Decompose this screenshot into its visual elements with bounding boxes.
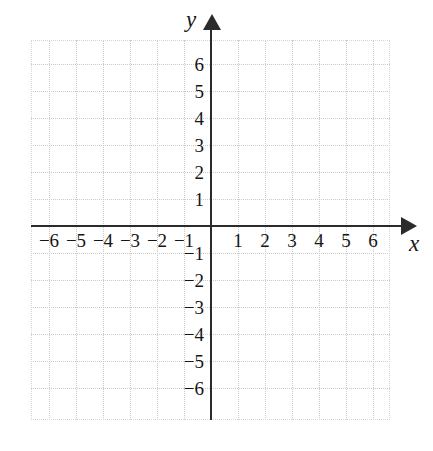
x-axis-line bbox=[31, 225, 405, 227]
x-tick-label: −4 bbox=[93, 231, 113, 250]
x-tick-label: 6 bbox=[368, 231, 378, 250]
y-tick-label: −2 bbox=[184, 271, 204, 290]
grid-boundary-line bbox=[31, 40, 32, 420]
y-tick-label: 6 bbox=[195, 55, 205, 74]
x-tick-label: 3 bbox=[287, 231, 297, 250]
y-tick-label: −3 bbox=[184, 298, 204, 317]
x-tick-label: 1 bbox=[233, 231, 243, 250]
grid-boundary-line bbox=[389, 40, 390, 420]
coordinate-plane-figure: −6−5−4−3−2−1123456 654321−1−2−3−4−5−6 x … bbox=[0, 0, 433, 451]
y-axis-label: y bbox=[186, 8, 196, 31]
x-tick-label: 5 bbox=[341, 231, 351, 250]
x-tick-label: −5 bbox=[66, 231, 86, 250]
y-tick-label: 4 bbox=[195, 109, 205, 128]
y-axis-line bbox=[210, 28, 212, 420]
y-tick-label: 1 bbox=[195, 190, 205, 209]
y-tick-label: 5 bbox=[195, 82, 205, 101]
x-tick-label: −3 bbox=[120, 231, 140, 250]
y-tick-label: 3 bbox=[195, 136, 205, 155]
y-tick-label: 2 bbox=[195, 163, 205, 182]
x-tick-label: −2 bbox=[147, 231, 167, 250]
x-axis-label: x bbox=[409, 232, 419, 255]
y-tick-label: −6 bbox=[184, 379, 204, 398]
y-tick-label: −1 bbox=[184, 244, 204, 263]
y-axis-arrow-icon bbox=[203, 14, 221, 30]
y-tick-label: −5 bbox=[184, 352, 204, 371]
x-tick-label: 4 bbox=[314, 231, 324, 250]
x-tick-label: −6 bbox=[39, 231, 59, 250]
x-tick-label: 2 bbox=[260, 231, 270, 250]
y-tick-label: −4 bbox=[184, 325, 204, 344]
